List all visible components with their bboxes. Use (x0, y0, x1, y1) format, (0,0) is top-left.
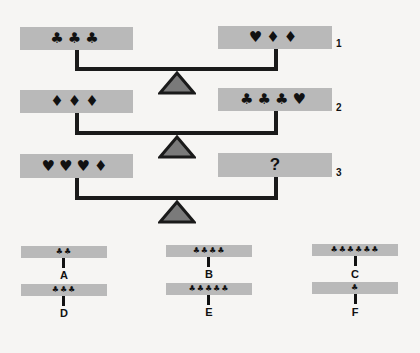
option-d-pan[interactable]: ♣♣♣ (21, 284, 107, 296)
option-b-symbols: ♣♣♣♣ (193, 247, 226, 255)
balance-2-right-symbols: ♣♣♣♥ (240, 92, 310, 107)
balance-3-right-pan: ? (218, 153, 332, 177)
balance-1-right-symbols: ♥♦♦ (249, 30, 301, 45)
balance-3-left-symbols: ♥♥♥♦ (42, 159, 112, 174)
balance-3-number: 3 (336, 167, 342, 178)
balance-2-left-pan: ♦♦♦ (20, 90, 133, 113)
balance-3-left-pan: ♥♥♥♦ (20, 154, 133, 178)
option-b-label[interactable]: B (199, 268, 219, 280)
balance-2-fulcrum-icon (158, 135, 196, 159)
balance-1-left-symbols: ♣♣♣ (50, 31, 102, 46)
balance-2-number: 2 (336, 102, 342, 113)
option-c-pan[interactable]: ♣♣♣♣♣♣ (312, 244, 398, 256)
balance-1-fulcrum-icon (158, 71, 196, 95)
option-e-label[interactable]: E (199, 306, 219, 318)
balance-1-number: 1 (336, 38, 342, 49)
option-e-stand (207, 295, 210, 305)
option-c-stand (354, 256, 357, 266)
option-a-stand (62, 258, 65, 268)
option-f-stand (354, 294, 357, 304)
option-a-label[interactable]: A (54, 269, 74, 281)
option-f-symbols: ♣ (351, 284, 359, 292)
option-d-stand (62, 296, 65, 306)
option-b-pan[interactable]: ♣♣♣♣ (166, 245, 252, 257)
balance-2-left-symbols: ♦♦♦ (50, 94, 102, 109)
option-e-symbols: ♣♣♣♣♣ (189, 285, 230, 293)
balance-1-right-pan: ♥♦♦ (218, 26, 332, 49)
option-f-label[interactable]: F (345, 306, 365, 318)
balance-2-right-pan: ♣♣♣♥ (218, 88, 332, 111)
option-a-symbols: ♣♣ (56, 248, 72, 256)
balance-1-left-pan: ♣♣♣ (20, 27, 133, 50)
option-b-stand (207, 257, 210, 267)
option-c-label[interactable]: C (345, 268, 365, 280)
option-f-pan[interactable]: ♣ (312, 282, 398, 294)
option-e-pan[interactable]: ♣♣♣♣♣ (166, 283, 252, 295)
option-c-symbols: ♣♣♣♣♣♣ (330, 246, 379, 254)
option-d-symbols: ♣♣♣ (52, 286, 77, 294)
option-a-pan[interactable]: ♣♣ (21, 246, 107, 258)
question-mark: ? (270, 155, 280, 175)
option-d-label[interactable]: D (54, 307, 74, 319)
balance-3-fulcrum-icon (158, 200, 196, 224)
